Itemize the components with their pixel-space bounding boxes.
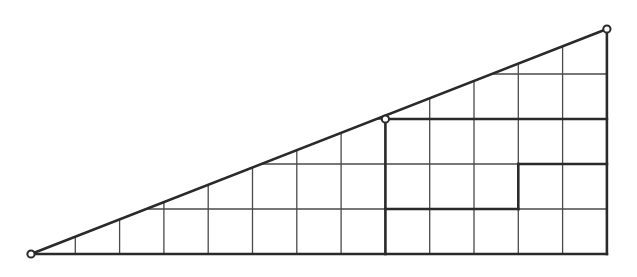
- grid-lines: [75, 46, 607, 254]
- triangle-grid-diagram: [0, 0, 637, 277]
- vertex-point-icon: [382, 115, 389, 122]
- vertex-point-icon: [27, 250, 34, 257]
- thick-outline-segments: [31, 29, 607, 254]
- hypotenuse: [31, 29, 607, 254]
- vertex-point-icon: [603, 25, 610, 32]
